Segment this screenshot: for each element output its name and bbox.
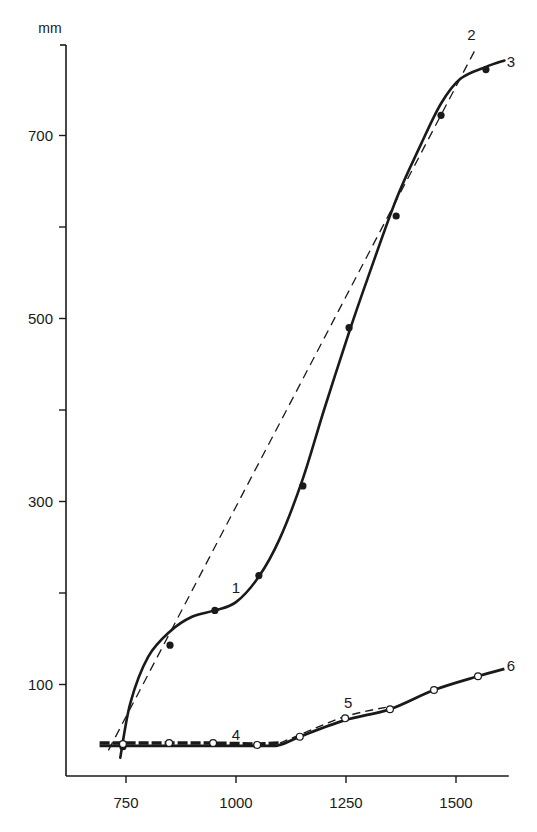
y-tick-label: 300	[28, 493, 53, 510]
x-tick-label: 1000	[219, 794, 252, 811]
data-point-open	[166, 740, 173, 747]
curve-label-4: 4	[232, 726, 240, 743]
data-point-filled	[255, 572, 262, 579]
data-point-open	[254, 741, 261, 748]
curve-label-2: 2	[467, 26, 475, 43]
curve-label-6: 6	[507, 657, 515, 674]
data-point-filled	[437, 112, 444, 119]
curve-3	[120, 60, 504, 757]
annotations-layer: 123456	[232, 26, 515, 743]
data-point-filled	[299, 482, 306, 489]
data-point-open	[387, 706, 394, 713]
data-point-filled	[211, 607, 218, 614]
data-point-open	[342, 715, 349, 722]
data-point-open	[210, 740, 217, 747]
x-tick-label: 1500	[439, 794, 472, 811]
data-point-filled	[166, 642, 173, 649]
curve-label-5: 5	[344, 694, 352, 711]
data-point-filled	[345, 324, 352, 331]
y-tick-label: 700	[28, 127, 53, 144]
data-point-filled	[393, 212, 400, 219]
data-point-open	[296, 733, 303, 740]
line-chart: mm100300500700750100012501500 123456	[0, 0, 537, 832]
x-tick-label: 1250	[329, 794, 362, 811]
y-axis-unit: mm	[38, 20, 61, 36]
data-point-filled	[482, 66, 489, 73]
y-tick-label: 100	[28, 676, 53, 693]
series-layer	[100, 49, 505, 758]
curve-2	[108, 49, 475, 751]
data-point-open	[120, 741, 127, 748]
markers-layer	[119, 66, 489, 750]
data-point-open	[431, 687, 438, 694]
y-tick-label: 500	[28, 310, 53, 327]
data-point-open	[475, 673, 482, 680]
curve-label-1: 1	[232, 579, 240, 596]
curve-label-3: 3	[507, 53, 515, 70]
x-tick-label: 750	[113, 794, 138, 811]
